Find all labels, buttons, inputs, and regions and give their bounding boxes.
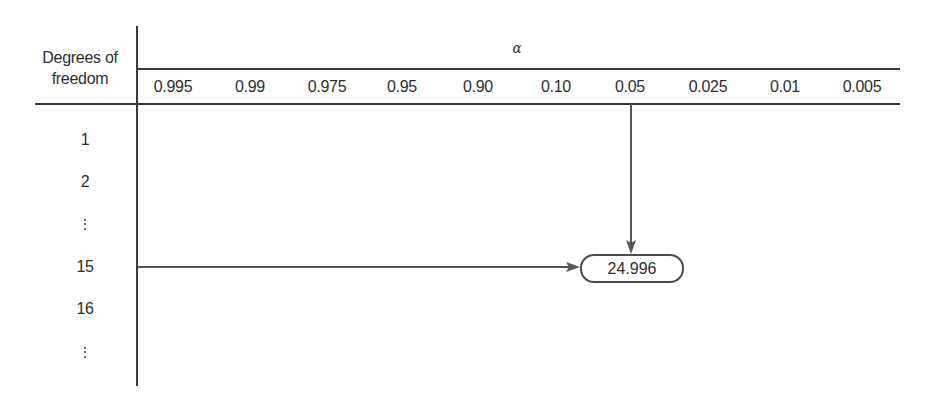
lookup-arrows — [0, 0, 932, 415]
critical-value-box: 24.996 — [580, 254, 684, 283]
vertical-arrow-from-alpha-005 — [626, 104, 636, 254]
critical-value: 24.996 — [582, 256, 682, 281]
horizontal-arrow-from-df-15 — [138, 262, 580, 272]
